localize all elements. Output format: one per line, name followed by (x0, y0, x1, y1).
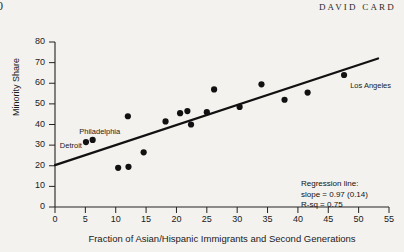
data-point (162, 118, 168, 124)
data-point (141, 149, 147, 155)
data-point (211, 86, 217, 92)
data-points (83, 72, 347, 171)
x-tick-label: 55 (379, 214, 399, 224)
y-tick-label: 70 (23, 57, 45, 67)
regression-line (55, 59, 378, 166)
x-tick-label: 0 (45, 214, 65, 224)
y-tick-label: 30 (23, 139, 45, 149)
y-tick-label: 10 (23, 180, 45, 190)
x-tick-label: 15 (136, 214, 156, 224)
data-point (281, 97, 287, 103)
x-axis-label: Fraction of Asian/Hispanic Immigrants an… (55, 233, 389, 244)
regression-line-segment (55, 59, 378, 166)
y-tick-label: 40 (23, 119, 45, 129)
data-point (125, 113, 131, 119)
data-point-label: Philadelphia (79, 127, 120, 136)
data-point (204, 109, 210, 115)
data-point (258, 81, 264, 87)
x-tick-label: 10 (106, 214, 126, 224)
data-point (83, 139, 89, 145)
x-tick-label: 35 (258, 214, 278, 224)
annotation-line-1: Regression line: (301, 179, 368, 190)
y-tick-label: 20 (23, 160, 45, 170)
data-point (305, 89, 311, 95)
data-point (184, 108, 190, 114)
y-tick-label: 80 (23, 36, 45, 46)
data-point (341, 72, 347, 78)
figure-page: 0 DAVID CARD Minority Share Fraction of … (0, 0, 404, 252)
data-point-label: Detroit (60, 141, 82, 150)
annotation-line-3: R-sq = 0.75 (301, 200, 368, 211)
x-tick-label: 30 (227, 214, 247, 224)
x-tick-label: 45 (318, 214, 338, 224)
y-axis-ticks (49, 42, 55, 207)
annotation-line-2: slope = 0.97 (0.14) (301, 190, 368, 201)
data-point (237, 104, 243, 110)
x-tick-label: 20 (166, 214, 186, 224)
data-point-label: Los Angeles (350, 81, 391, 90)
x-tick-label: 5 (75, 214, 95, 224)
y-tick-label: 50 (23, 98, 45, 108)
data-point (177, 110, 183, 116)
x-tick-label: 40 (288, 214, 308, 224)
data-point (125, 164, 131, 170)
data-point (188, 121, 194, 127)
y-tick-label: 60 (23, 77, 45, 87)
regression-annotation: Regression line: slope = 0.97 (0.14) R-s… (301, 179, 368, 211)
x-tick-label: 50 (349, 214, 369, 224)
y-axis-label: Minority Share (11, 37, 21, 137)
y-tick-label: 0 (23, 201, 45, 211)
x-tick-label: 25 (197, 214, 217, 224)
data-point (115, 165, 121, 171)
data-point (90, 137, 96, 143)
